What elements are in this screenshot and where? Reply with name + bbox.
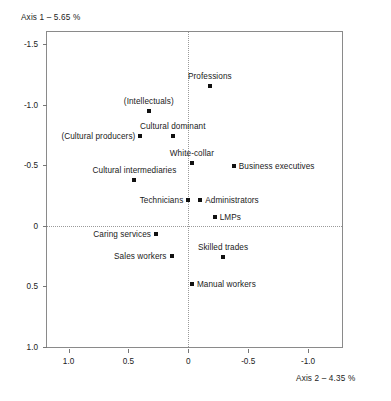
data-point-marker[interactable] xyxy=(138,134,142,138)
data-point-label: Cultural dominant xyxy=(140,122,206,131)
data-point-label: (Cultural producers) xyxy=(61,132,135,141)
data-point-marker[interactable] xyxy=(186,198,190,202)
data-point-marker[interactable] xyxy=(221,255,225,259)
data-point-marker[interactable] xyxy=(190,161,194,165)
data-point-marker[interactable] xyxy=(154,232,158,236)
data-point-label: Skilled trades xyxy=(198,243,248,252)
y-tick xyxy=(43,347,47,348)
y-tick-label: 0 xyxy=(33,221,38,230)
plot-area: 1.00.50-0.5-1.0 -1.5-1.0-0.500.51.0 Prof… xyxy=(46,31,343,348)
x-tick xyxy=(188,349,189,353)
data-point-label: Caring services xyxy=(93,230,151,239)
data-point-marker[interactable] xyxy=(190,282,194,286)
data-point-label: Technicians xyxy=(140,196,184,205)
x-tick-label: -0.5 xyxy=(241,357,255,366)
x-axis-title: Axis 2 – 4.35 % xyxy=(296,374,355,383)
data-point-marker[interactable] xyxy=(213,215,217,219)
y-tick xyxy=(43,286,47,287)
data-point-marker[interactable] xyxy=(170,254,174,258)
data-point-label: Sales workers xyxy=(114,251,166,260)
data-point-label: Manual workers xyxy=(197,279,256,288)
x-tick xyxy=(248,349,249,353)
x-tick xyxy=(308,349,309,353)
data-point-label: Business executives xyxy=(239,162,315,171)
y-tick-label: 1.0 xyxy=(27,342,38,351)
y-axis-title: Axis 1 – 5.65 % xyxy=(21,13,80,22)
horizontal-reference-line xyxy=(47,226,342,227)
y-tick xyxy=(43,165,47,166)
data-point-label: LMPs xyxy=(220,213,241,222)
correspondence-analysis-biplot: Axis 1 – 5.65 % Axis 2 – 4.35 % 1.00.50-… xyxy=(0,0,391,401)
data-point-label: Administrators xyxy=(205,196,258,205)
y-tick-label: 0.5 xyxy=(27,282,38,291)
y-tick-label: -1.5 xyxy=(24,40,38,49)
x-tick-label: -1.0 xyxy=(301,357,315,366)
y-tick xyxy=(43,105,47,106)
x-tick-label: 1.0 xyxy=(63,357,74,366)
x-tick xyxy=(128,349,129,353)
data-point-label: White-collar xyxy=(170,149,214,158)
data-point-marker[interactable] xyxy=(147,109,151,113)
data-point-label: (Intellectuals) xyxy=(124,97,174,106)
y-tick xyxy=(43,226,47,227)
data-point-marker[interactable] xyxy=(132,178,136,182)
x-tick-label: 0.5 xyxy=(123,357,134,366)
data-point-label: Professions xyxy=(188,72,232,81)
y-tick-label: -1.0 xyxy=(24,100,38,109)
x-tick-label: 0 xyxy=(186,357,191,366)
data-point-marker[interactable] xyxy=(208,84,212,88)
data-point-marker[interactable] xyxy=(198,198,202,202)
data-point-marker[interactable] xyxy=(232,164,236,168)
x-tick xyxy=(69,349,70,353)
data-point-marker[interactable] xyxy=(171,134,175,138)
y-tick-label: -0.5 xyxy=(24,161,38,170)
data-point-label: Cultural intermediaries xyxy=(93,166,177,175)
y-tick xyxy=(43,44,47,45)
